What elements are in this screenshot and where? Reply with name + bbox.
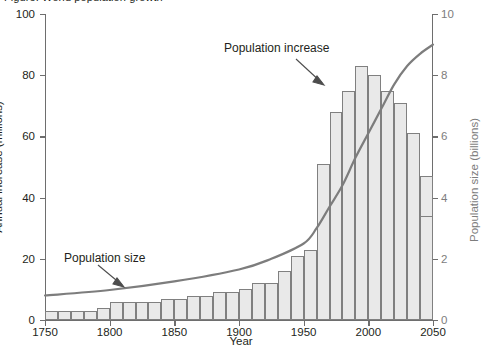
y-tick-left bbox=[40, 198, 45, 199]
bar bbox=[394, 103, 407, 320]
y-tick-left bbox=[40, 14, 45, 15]
bar bbox=[174, 299, 187, 320]
bar bbox=[148, 302, 161, 320]
bar bbox=[317, 164, 330, 320]
y-tick-left bbox=[40, 136, 45, 137]
bar bbox=[420, 216, 433, 320]
bar bbox=[71, 311, 84, 320]
bar bbox=[136, 302, 149, 320]
bar bbox=[291, 256, 304, 320]
bar bbox=[304, 250, 317, 320]
bar-series-annual-increase bbox=[45, 14, 433, 320]
bar bbox=[330, 112, 343, 320]
figure-population-growth: Figure: World population growth 02040608… bbox=[0, 0, 482, 358]
bar bbox=[368, 75, 381, 320]
y-tick-label-left: 100 bbox=[1, 8, 35, 20]
bar bbox=[213, 292, 226, 320]
x-tick-label: 1850 bbox=[151, 326, 197, 338]
y-tick-right bbox=[433, 136, 438, 137]
y-tick-label-right: 6 bbox=[441, 130, 461, 142]
bar bbox=[265, 283, 278, 320]
annotation-population-size: Population size bbox=[64, 251, 145, 265]
bar bbox=[200, 296, 213, 320]
bar bbox=[226, 292, 239, 320]
y-tick-left bbox=[40, 259, 45, 260]
y-tick-label-left: 60 bbox=[1, 130, 35, 142]
bar bbox=[161, 299, 174, 320]
y-tick-right bbox=[433, 14, 438, 15]
bar bbox=[381, 91, 394, 321]
bar bbox=[252, 283, 265, 320]
x-tick-label: 2000 bbox=[345, 326, 391, 338]
y-tick-label-right: 0 bbox=[441, 314, 461, 326]
bar bbox=[58, 311, 71, 320]
bar bbox=[45, 311, 58, 320]
bar bbox=[187, 296, 200, 320]
y-tick-right bbox=[433, 198, 438, 199]
figure-caption: Figure: World population growth bbox=[4, 0, 163, 3]
bar bbox=[239, 289, 252, 320]
bar bbox=[97, 308, 110, 320]
y-tick-label-left: 0 bbox=[1, 314, 35, 326]
plot-area: 020406080100 0246810 1750180018501900195… bbox=[45, 14, 433, 321]
y-tick-label-left: 20 bbox=[1, 253, 35, 265]
bar bbox=[278, 271, 291, 320]
bar bbox=[84, 311, 97, 320]
y-axis-right-title: Population size (billions) bbox=[468, 118, 480, 242]
y-tick-label-left: 80 bbox=[1, 69, 35, 81]
y-tick-left bbox=[40, 75, 45, 76]
annotation-population-increase: Population increase bbox=[224, 41, 329, 55]
y-tick-right bbox=[433, 259, 438, 260]
bar bbox=[123, 302, 136, 320]
bar bbox=[355, 66, 368, 320]
bar bbox=[407, 133, 420, 320]
bar bbox=[342, 91, 355, 321]
x-tick-label: 1800 bbox=[87, 326, 133, 338]
y-tick-label-right: 2 bbox=[441, 253, 461, 265]
y-tick-label-right: 10 bbox=[441, 8, 461, 20]
y-tick-right bbox=[433, 75, 438, 76]
y-tick-label-left: 40 bbox=[1, 192, 35, 204]
y-tick-label-right: 8 bbox=[441, 69, 461, 81]
x-tick-label: 1950 bbox=[281, 326, 327, 338]
x-axis-title: Year bbox=[229, 335, 252, 347]
x-tick-label: 2050 bbox=[410, 326, 456, 338]
y-axis-left-title: Annual increase (millions) bbox=[0, 101, 4, 233]
y-tick-label-right: 4 bbox=[441, 192, 461, 204]
x-tick-label: 1750 bbox=[22, 326, 68, 338]
bar bbox=[110, 302, 123, 320]
